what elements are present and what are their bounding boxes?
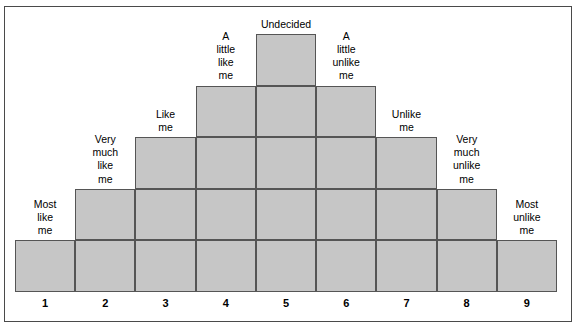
- grid-cell[interactable]: [437, 240, 497, 292]
- anchor-label-9: Most unlike me: [497, 198, 557, 238]
- column-number-6: 6: [316, 297, 376, 310]
- grid-cell[interactable]: [256, 86, 316, 138]
- grid-cell[interactable]: [316, 86, 376, 138]
- grid-cell[interactable]: [316, 189, 376, 241]
- column-number-7: 7: [376, 297, 436, 310]
- column-number-3: 3: [135, 297, 195, 310]
- grid-cell[interactable]: [497, 240, 557, 292]
- anchor-label-8: Very much unlike me: [437, 133, 497, 186]
- grid-cell[interactable]: [75, 189, 135, 241]
- grid-cell[interactable]: [376, 189, 436, 241]
- grid-cell[interactable]: [196, 189, 256, 241]
- grid-cell[interactable]: [316, 137, 376, 189]
- grid-cell[interactable]: [376, 137, 436, 189]
- figure-canvas: 1Most like me2Very much like me3Like me4…: [0, 0, 580, 329]
- grid-cell[interactable]: [316, 240, 376, 292]
- column-number-9: 9: [497, 297, 557, 310]
- grid-cell[interactable]: [196, 86, 256, 138]
- column-number-1: 1: [15, 297, 75, 310]
- grid-cell[interactable]: [256, 137, 316, 189]
- column-number-8: 8: [437, 297, 497, 310]
- column-number-2: 2: [75, 297, 135, 310]
- grid-cell[interactable]: [135, 137, 195, 189]
- anchor-label-1: Most like me: [15, 198, 75, 238]
- anchor-label-4: A little like me: [196, 30, 256, 83]
- grid-cell[interactable]: [135, 189, 195, 241]
- grid-cell[interactable]: [256, 189, 316, 241]
- column-number-5: 5: [256, 297, 316, 310]
- grid-cell[interactable]: [376, 240, 436, 292]
- grid-cell[interactable]: [256, 240, 316, 292]
- anchor-label-3: Like me: [135, 108, 195, 134]
- anchor-label-5: Undecided: [256, 18, 316, 31]
- grid-cell[interactable]: [196, 137, 256, 189]
- grid-cell[interactable]: [196, 240, 256, 292]
- grid-cell[interactable]: [437, 189, 497, 241]
- grid-cell[interactable]: [256, 34, 316, 86]
- grid-cell[interactable]: [135, 240, 195, 292]
- anchor-label-2: Very much like me: [75, 133, 135, 186]
- grid-cell[interactable]: [75, 240, 135, 292]
- grid-cell[interactable]: [15, 240, 75, 292]
- column-number-4: 4: [196, 297, 256, 310]
- anchor-label-6: A little unlike me: [316, 30, 376, 83]
- anchor-label-7: Unlike me: [376, 108, 436, 134]
